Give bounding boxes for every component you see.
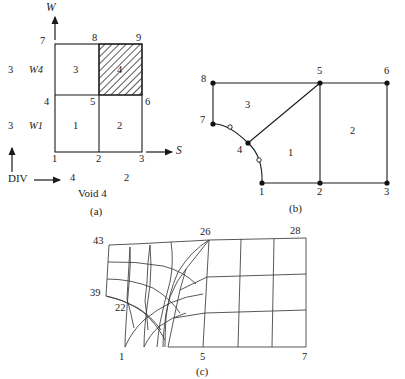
panel-a-axis-w-label: W <box>46 2 56 14</box>
panel-c-node-label-1: 1 <box>119 352 124 363</box>
panel-b-element-3: 3 <box>245 100 250 111</box>
panel-a-row-weight-name-bottom: W1 <box>29 121 43 132</box>
panel-a-node-1: 1 <box>52 154 57 165</box>
panel-c-right-block <box>203 238 306 347</box>
panel-c-node-label-39: 39 <box>90 288 101 299</box>
panel-b-element-2: 2 <box>350 126 355 137</box>
panel-b-node-8 <box>210 80 215 85</box>
panel-a-void-label: Void 4 <box>78 188 107 199</box>
panel-b-caption: (b) <box>289 203 302 214</box>
panel-b-graphics <box>210 80 389 185</box>
panel-b-curved-edge-4-1 <box>248 143 262 183</box>
panel-c-transition-band <box>168 240 209 347</box>
figure-root: W S DIV Void 4 7 8 9 4 5 6 1 2 3 3 4 1 2… <box>0 0 405 379</box>
panel-c-caption: (c) <box>196 366 208 377</box>
panel-a-node-7: 7 <box>40 36 45 47</box>
panel-b-node-4 <box>245 140 250 145</box>
panel-a-col-division-right: 2 <box>124 173 129 184</box>
panel-a-node-9: 9 <box>136 33 141 44</box>
panel-b-node-7 <box>210 121 215 126</box>
panel-c-graphics <box>106 238 306 347</box>
panel-c-node-label-7: 7 <box>302 352 307 363</box>
panel-a-element-4: 4 <box>117 65 122 76</box>
panel-b-edge-4-5 <box>248 83 320 143</box>
panel-a-caption: (a) <box>90 206 102 217</box>
panel-a-row-weight-name-top: W4 <box>29 65 43 76</box>
panel-a-element-3: 3 <box>73 65 78 76</box>
panel-b-node-label-3: 3 <box>384 187 389 198</box>
panel-c-node-label-5: 5 <box>200 352 205 363</box>
panel-a-div-label: DIV <box>8 173 28 184</box>
panel-a-col-division-left: 4 <box>70 173 75 184</box>
panel-c-node-label-43: 43 <box>93 236 104 247</box>
panel-b-node-label-4: 4 <box>237 145 242 156</box>
panel-b-node-label-8: 8 <box>201 74 206 85</box>
panel-a-element-1: 1 <box>73 121 78 132</box>
panel-b-node-3 <box>384 180 389 185</box>
panel-a-node-5: 5 <box>90 97 95 108</box>
panel-b-node-2 <box>317 180 322 185</box>
panel-b-node-label-6: 6 <box>384 66 389 77</box>
panel-c-node-label-26: 26 <box>200 227 211 238</box>
panel-c-node-label-28: 28 <box>290 226 301 237</box>
panel-a-node-8: 8 <box>92 33 97 44</box>
panel-b-midnode-7-4 <box>228 125 232 129</box>
panel-b-node-label-2: 2 <box>317 187 322 198</box>
figure-svg <box>0 0 405 379</box>
panel-b-node-6 <box>384 80 389 85</box>
panel-c-lower-fan <box>125 294 203 347</box>
panel-a-node-4: 4 <box>44 97 49 108</box>
panel-a-node-2: 2 <box>96 154 101 165</box>
panel-b-node-5 <box>317 80 322 85</box>
panel-a-node-6: 6 <box>145 97 150 108</box>
panel-b-midnode-4-1 <box>257 158 261 162</box>
panel-a-element-2: 2 <box>117 121 122 132</box>
panel-b-node-label-5: 5 <box>317 66 322 77</box>
panel-a-node-3: 3 <box>139 154 144 165</box>
panel-a-axis-s-label: S <box>176 145 182 157</box>
panel-a-row-division-count-bottom: 3 <box>8 121 13 132</box>
panel-a-row-division-count-top: 3 <box>8 65 13 76</box>
panel-c-node-label-22: 22 <box>115 303 126 314</box>
panel-b-node-1 <box>259 180 264 185</box>
panel-b-node-label-1: 1 <box>259 187 264 198</box>
panel-b-node-label-7: 7 <box>200 115 205 126</box>
panel-b-element-1: 1 <box>288 148 293 159</box>
